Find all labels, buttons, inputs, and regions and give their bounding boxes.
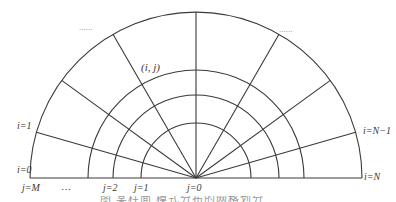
ellipsis-left: ...... bbox=[79, 22, 93, 32]
label-i-0: i=0 bbox=[17, 164, 32, 175]
ellipsis-right: ...... bbox=[279, 24, 293, 34]
radial-line-6 bbox=[196, 132, 356, 178]
radial-line-1 bbox=[62, 80, 196, 178]
radial-line-5 bbox=[196, 80, 330, 178]
radial-line-2 bbox=[113, 34, 196, 178]
radial-line-0 bbox=[36, 132, 196, 178]
label-j-dots: … bbox=[61, 181, 71, 192]
figure-caption: 图 某柱面 模式分布的网格划分 bbox=[100, 196, 310, 202]
label-j-M: j=M bbox=[20, 182, 41, 193]
figure-caption-text: 图 某柱面 模式分布的网格划分 bbox=[100, 196, 310, 202]
label-j-2: j=2 bbox=[101, 182, 118, 193]
label-j-0: j=0 bbox=[185, 182, 202, 193]
radial-lines bbox=[36, 12, 355, 178]
cell-label: (i, j) bbox=[141, 61, 160, 74]
label-i-N: i=N bbox=[364, 171, 382, 182]
label-i-1: i=1 bbox=[17, 120, 32, 131]
label-j-1: j=1 bbox=[132, 182, 149, 193]
radial-line-4 bbox=[196, 34, 279, 178]
grid-svg: (i, j) ...... ...... i=1 i=0 i=N−1 i=N j… bbox=[0, 0, 396, 202]
polar-grid-diagram: (i, j) ...... ...... i=1 i=0 i=N−1 i=N j… bbox=[0, 0, 396, 202]
label-i-N-minus-1: i=N−1 bbox=[363, 125, 391, 136]
